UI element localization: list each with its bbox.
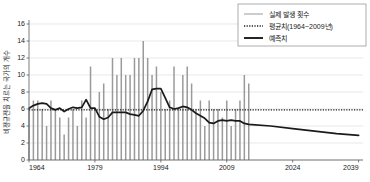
y-tick-label: 10	[17, 71, 25, 78]
y-tick-label: 4	[21, 122, 25, 129]
x-tick-label: 2039	[343, 164, 359, 171]
y-tick-label: 14	[17, 37, 25, 44]
x-tick-label: 2009	[219, 164, 235, 171]
chart-plot: 196419791994200920242039 0246810121416 비…	[0, 0, 370, 182]
x-tick-label: 1994	[153, 164, 169, 171]
chart-container: 196419791994200920242039 0246810121416 비…	[0, 0, 370, 182]
x-tick-label: 2024	[285, 164, 301, 171]
y-tick-label: 0	[21, 156, 25, 163]
x-tick-label: 1964	[29, 164, 45, 171]
y-axis-title: 비정규전을 치르는 국가의 개수	[2, 50, 11, 133]
y-tick-label: 6	[21, 105, 25, 112]
chart-legend: 실제 발생 횟수평균치(1964~2009년)예측치	[238, 4, 366, 46]
y-tick-label: 2	[21, 139, 25, 146]
x-tick-label: 1979	[87, 164, 103, 171]
y-tick-label: 12	[17, 54, 25, 61]
y-axis-title-text: 비정규전을 치르는 국가의 개수	[2, 50, 11, 133]
legend-label: 평균치(1964~2009년)	[269, 22, 333, 31]
y-tick-label: 16	[17, 20, 25, 27]
legend-label: 예측치	[269, 34, 287, 43]
y-tick-label: 8	[21, 88, 25, 95]
legend-label: 실제 발생 횟수	[269, 10, 310, 19]
